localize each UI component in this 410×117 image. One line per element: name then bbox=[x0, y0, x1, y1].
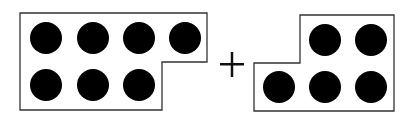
dot bbox=[30, 69, 62, 101]
dot bbox=[77, 69, 109, 101]
dot bbox=[123, 22, 155, 54]
dot bbox=[77, 22, 109, 54]
addition-diagram bbox=[0, 0, 410, 117]
dot bbox=[355, 24, 387, 56]
plus-icon bbox=[220, 52, 244, 77]
dot bbox=[309, 24, 341, 56]
right-dot-group bbox=[254, 15, 394, 111]
dot bbox=[30, 22, 62, 54]
dot bbox=[309, 71, 341, 103]
dot bbox=[355, 71, 387, 103]
left-dot-group bbox=[20, 13, 207, 110]
dot bbox=[169, 22, 201, 54]
dot bbox=[123, 69, 155, 101]
dot bbox=[263, 71, 295, 103]
